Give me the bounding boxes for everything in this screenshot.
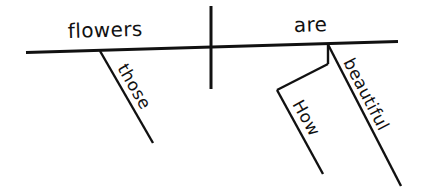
- predicate-adjective-line: [328, 45, 401, 187]
- sentence-diagram-canvas: flowers are those beautiful How: [0, 0, 427, 195]
- label-subject: flowers: [67, 17, 143, 43]
- label-adverb-modifier: How: [289, 96, 325, 139]
- sentence-diagram: flowers are those beautiful How: [0, 0, 427, 195]
- adverb-connector-line: [277, 64, 328, 90]
- label-predicate-adjective: beautiful: [339, 55, 393, 134]
- label-verb: are: [293, 12, 327, 37]
